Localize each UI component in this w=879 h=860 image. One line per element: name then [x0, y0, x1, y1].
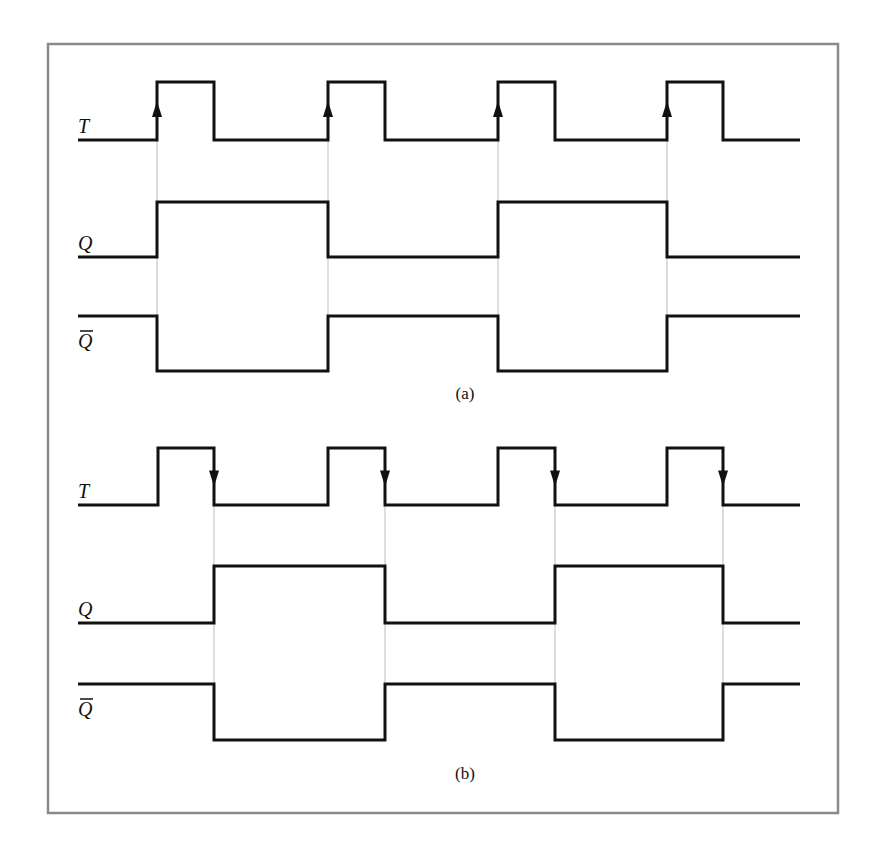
q-label: Q [78, 598, 93, 620]
panel-b-falling-edge: TQQ(b) [78, 448, 800, 783]
down-arrow-icon [380, 471, 390, 487]
q-waveform [78, 202, 800, 257]
up-arrow-icon [662, 101, 672, 117]
panel-caption: (b) [455, 764, 475, 783]
up-arrow-icon [323, 101, 333, 117]
q-bar-label: Q [78, 698, 93, 720]
t-waveform [78, 448, 800, 505]
t-waveform [78, 82, 800, 140]
q-bar-label: Q [78, 330, 93, 352]
down-arrow-icon [718, 471, 728, 487]
panel-a-rising-edge: TQQ(a) [78, 82, 800, 403]
figure-frame [48, 44, 838, 813]
timing-diagram: TQQ(a) TQQ(b) [0, 0, 879, 860]
q-waveform [78, 566, 800, 623]
q-bar-waveform [78, 684, 800, 740]
up-arrow-icon [493, 101, 503, 117]
t-label: T [78, 480, 91, 502]
down-arrow-icon [550, 471, 560, 487]
down-arrow-icon [209, 471, 219, 487]
t-label: T [78, 115, 91, 137]
q-bar-waveform [78, 316, 800, 371]
up-arrow-icon [152, 101, 162, 117]
edge-guide-lines [157, 140, 723, 740]
panel-caption: (a) [456, 384, 475, 403]
q-label: Q [78, 232, 93, 254]
